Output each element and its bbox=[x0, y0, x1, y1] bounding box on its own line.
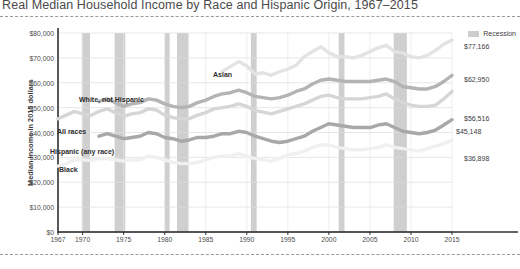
y-tick-label: $60,000 bbox=[0, 79, 54, 86]
x-tick-label: 1975 bbox=[116, 236, 131, 243]
x-tick-label: 1967 bbox=[50, 236, 65, 243]
chart-root: Real Median Household Income by Race and… bbox=[0, 0, 520, 269]
series-end-value-label: $56,516 bbox=[464, 115, 489, 122]
legend: Recession bbox=[468, 30, 516, 37]
x-tick-label: 1970 bbox=[75, 236, 90, 243]
series-label: Hispanic (any race) bbox=[50, 148, 114, 155]
divider-bottom bbox=[0, 254, 520, 255]
series-label: Black bbox=[59, 166, 78, 173]
y-tick-label: $0 bbox=[0, 229, 54, 236]
recession-band-swatch-icon bbox=[468, 31, 479, 37]
x-tick-label: 2015 bbox=[444, 236, 459, 243]
x-tick-label: 2000 bbox=[321, 236, 336, 243]
y-tick-label: $80,000 bbox=[0, 30, 54, 37]
x-tick-label: 1990 bbox=[239, 236, 254, 243]
y-tick-label: $70,000 bbox=[0, 54, 54, 61]
x-tick-label: 2005 bbox=[362, 236, 377, 243]
series-end-value-label: $45,148 bbox=[456, 128, 481, 135]
x-tick-label: 1995 bbox=[280, 236, 295, 243]
x-tick-label: 1985 bbox=[198, 236, 213, 243]
y-tick-label: $30,000 bbox=[0, 154, 54, 161]
y-tick-label: $20,000 bbox=[0, 179, 54, 186]
series-end-value-label: $77,166 bbox=[464, 43, 489, 50]
legend-label-recession: Recession bbox=[483, 30, 516, 37]
x-tick-label: 1980 bbox=[157, 236, 172, 243]
series-end-value-label: $62,950 bbox=[464, 76, 489, 83]
chart-title: Real Median Household Income by Race and… bbox=[2, 0, 418, 12]
series-label: Asian bbox=[213, 71, 232, 78]
divider-top bbox=[0, 16, 520, 17]
y-tick-label: $10,000 bbox=[0, 204, 54, 211]
y-tick-label: $50,000 bbox=[0, 104, 54, 111]
series-label: All races bbox=[57, 128, 86, 135]
series-label: White, not Hispanic bbox=[79, 96, 144, 103]
x-tick-label: 2010 bbox=[403, 236, 418, 243]
y-tick-label: $40,000 bbox=[0, 129, 54, 136]
series-end-value-label: $36,898 bbox=[464, 155, 489, 162]
